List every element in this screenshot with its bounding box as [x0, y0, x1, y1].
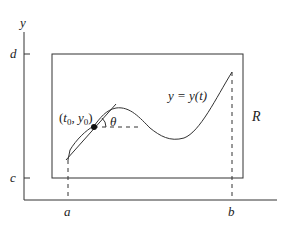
region-label-r: R [251, 109, 261, 124]
diagram-canvas: y d c a b R y = y(t) θ (t0, y0) [0, 0, 286, 227]
y-axis-label: y [18, 15, 26, 30]
curve-label: y = y(t) [166, 88, 207, 103]
point-label: (t0, y0) [59, 110, 93, 127]
tick-label-a: a [64, 204, 71, 219]
curve-y-of-t [68, 72, 232, 160]
angle-label-theta: θ [110, 114, 117, 129]
tick-label-c: c [10, 170, 16, 185]
tick-label-b: b [228, 204, 235, 219]
tick-label-d: d [10, 46, 17, 61]
